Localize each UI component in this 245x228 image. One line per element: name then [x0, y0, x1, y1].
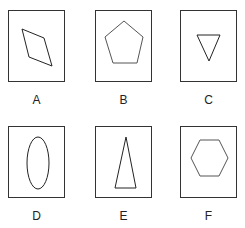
- box-d: [8, 126, 65, 198]
- tall-triangle-shape: [96, 127, 153, 199]
- label-c: C: [180, 93, 237, 107]
- box-c: [180, 10, 237, 82]
- label-e: E: [95, 209, 152, 223]
- inverted-triangle-shape: [181, 11, 238, 83]
- box-f: [180, 126, 237, 198]
- box-b: [95, 10, 152, 82]
- pentagon-shape: [96, 11, 153, 83]
- hexagon-shape: [181, 127, 238, 199]
- ellipse-shape: [9, 127, 66, 199]
- rhombus-shape: [9, 11, 66, 83]
- label-d: D: [8, 209, 65, 223]
- label-a: A: [8, 93, 65, 107]
- box-e: [95, 126, 152, 198]
- label-b: B: [95, 93, 152, 107]
- box-a: [8, 10, 65, 82]
- label-f: F: [180, 209, 237, 223]
